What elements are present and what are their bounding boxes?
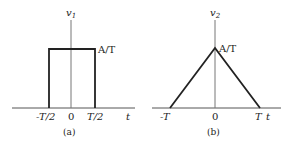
diagram-a-rectangular-pulse: v1 A/T -T/2 0 T/2 t (a) xyxy=(12,7,135,137)
diagram-b-tick-neg-T: -T xyxy=(160,111,171,122)
diagram-b-y-label: v2 xyxy=(210,7,221,20)
diagram-b-tick-zero: 0 xyxy=(212,111,218,122)
diagram-a-tick-half-T: T/2 xyxy=(87,111,103,122)
diagram-b-triangular-pulse: v2 A/T -T 0 T t (b) xyxy=(152,7,281,137)
diagram-b-caption: (b) xyxy=(207,127,220,137)
diagram-b-amplitude-label: A/T xyxy=(218,43,237,54)
diagram-a-rect-pulse xyxy=(49,49,95,108)
diagram-a-tick-neg-half-T: -T/2 xyxy=(36,111,55,122)
diagram-a-tick-zero: 0 xyxy=(68,111,74,122)
diagram-a-y-label: v1 xyxy=(66,7,76,20)
diagram-a-x-label: t xyxy=(126,111,131,122)
diagram-b-x-label: t xyxy=(266,111,271,122)
pulse-diagrams: v1 A/T -T/2 0 T/2 t (a) v2 A/T -T 0 T t … xyxy=(0,0,289,146)
diagram-a-caption: (a) xyxy=(63,127,75,137)
diagram-b-tick-T: T xyxy=(255,111,263,122)
diagram-a-amplitude-label: A/T xyxy=(97,44,116,55)
